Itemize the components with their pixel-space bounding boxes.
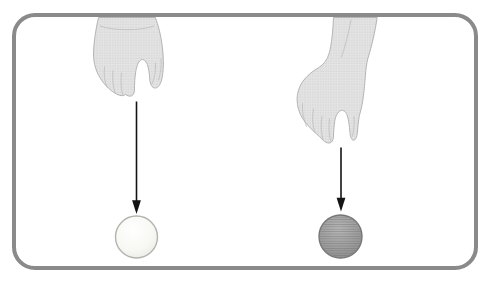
light-ball-icon: [116, 216, 158, 258]
right-drop-arrow: [337, 148, 346, 212]
left-hand: [94, 18, 164, 97]
arrowhead-down-icon: [337, 198, 346, 212]
left-drop-arrow: [132, 102, 141, 215]
figure-canvas: [0, 0, 487, 281]
right-hand: [297, 18, 377, 144]
figure-frame: [14, 15, 476, 268]
drop-experiment-figure: [0, 0, 487, 281]
shaded-ball: [319, 215, 362, 258]
hand-texture: [94, 18, 164, 97]
shaded-ball-texture: [320, 216, 361, 257]
arrowhead-down-icon: [132, 200, 141, 214]
